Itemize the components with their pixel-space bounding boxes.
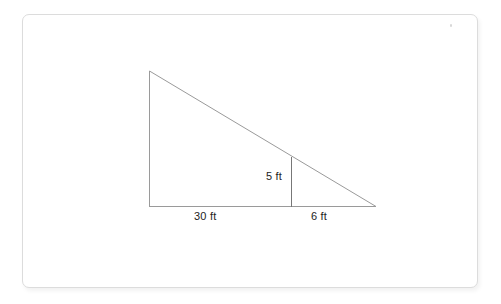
height-label: 5 ft: [266, 171, 282, 182]
scan-speck-artifact: [450, 24, 452, 27]
screenshot-canvas: 5 ft 30 ft 6 ft: [0, 0, 501, 304]
base-left-label: 30 ft: [194, 211, 216, 222]
figure-card: [22, 14, 478, 288]
base-right-label: 6 ft: [311, 211, 327, 222]
